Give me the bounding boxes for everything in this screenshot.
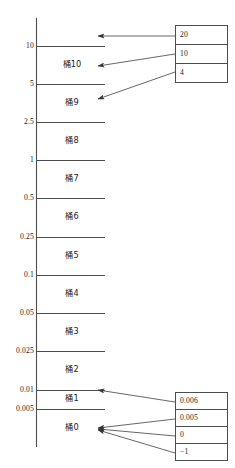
figure-svg bbox=[0, 0, 235, 468]
axis-tick-label: 0.5 bbox=[24, 194, 34, 202]
bucket-label-10: 桶0 bbox=[44, 423, 100, 431]
axis-tick-label: 0.1 bbox=[24, 271, 34, 279]
bucket-label-0: 桶10 bbox=[44, 60, 100, 68]
top-box-cell: 10 bbox=[180, 50, 188, 58]
bucket-label-3: 桶7 bbox=[44, 174, 100, 182]
top-box-cell: 4 bbox=[180, 69, 184, 77]
axis-tick-label: 2.5 bbox=[24, 118, 34, 126]
bucket-label-9: 桶1 bbox=[44, 394, 100, 402]
axis-tick-label: 5 bbox=[30, 80, 34, 88]
bottom-box-cell: 0.005 bbox=[180, 414, 198, 422]
axis-tick-label: 0.005 bbox=[16, 405, 34, 413]
bucket-label-8: 桶2 bbox=[44, 365, 100, 373]
arrow-4-to-bucket9 bbox=[98, 72, 175, 99]
arrow-0006-to-bucket1 bbox=[98, 390, 175, 402]
bucket-label-2: 桶8 bbox=[44, 136, 100, 144]
axis-tick-label: 0.025 bbox=[16, 347, 34, 355]
mapping-arrows bbox=[98, 36, 175, 453]
axis-tick-label: 0.01 bbox=[20, 386, 34, 394]
diagram-canvas: 1052.510.50.250.10.050.0250.010.005 桶10桶… bbox=[0, 0, 235, 468]
axis-tick-label: 0.25 bbox=[20, 233, 34, 241]
arrow-minus1-to-bucket0 bbox=[98, 430, 175, 453]
arrow-10-to-bucket10 bbox=[98, 54, 175, 66]
axis-tick-label: 10 bbox=[26, 42, 34, 50]
bucket-label-5: 桶5 bbox=[44, 251, 100, 259]
arrow-0-to-bucket0 bbox=[98, 429, 175, 436]
axis-tick-label: 0.05 bbox=[20, 309, 34, 317]
arrow-0005-to-bucket0 bbox=[98, 419, 175, 428]
bucket-label-4: 桶6 bbox=[44, 212, 100, 220]
top-box-cell: 20 bbox=[180, 31, 188, 39]
bottom-box-cell: 0 bbox=[180, 431, 184, 439]
bucket-label-1: 桶9 bbox=[44, 98, 100, 106]
bottom-box-cell: −1 bbox=[180, 448, 188, 456]
axis-tick-label: 1 bbox=[30, 156, 34, 164]
bucket-label-6: 桶4 bbox=[44, 289, 100, 297]
bucket-label-7: 桶3 bbox=[44, 327, 100, 335]
bottom-box-cell: 0.006 bbox=[180, 397, 198, 405]
